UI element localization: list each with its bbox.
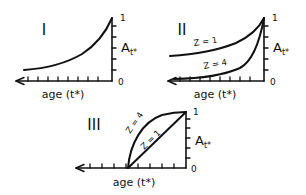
figure-container: I 1 0 At* age (t*) <box>0 0 306 195</box>
y-tick-bottom-label: 0 <box>270 77 276 87</box>
y-tick-top-label: 1 <box>272 13 278 23</box>
x-axis-label: age (t*) <box>113 176 155 189</box>
panel-one: I 1 0 At* age (t*) <box>0 2 152 102</box>
y-axis-label: At* <box>195 133 211 150</box>
panel-one-plot: I 1 0 At* age (t*) <box>0 2 152 102</box>
y-tick-bottom-label: 0 <box>191 164 197 174</box>
y-axis-label-main: A <box>195 133 204 148</box>
y-tick-top-label: 1 <box>193 107 199 117</box>
panel-roman-numeral: I <box>42 21 46 39</box>
y-axis-label: At* <box>121 40 137 57</box>
curve-label-z4: Z = 4 <box>203 57 228 71</box>
y-tick-bottom-label: 0 <box>118 77 124 87</box>
y-axis-label-sub: t* <box>282 48 289 57</box>
panel-roman-numeral: III <box>87 116 100 134</box>
y-axis-label-main: A <box>273 40 282 55</box>
curve-a <box>24 18 112 70</box>
curve-label-z1: Z = 1 <box>193 35 218 48</box>
y-axis-label-sub: t* <box>204 141 211 150</box>
curve-label-z4: Z = 4 <box>123 110 145 135</box>
panel-roman-numeral: II <box>178 21 187 39</box>
y-tick-top-label: 1 <box>120 13 126 23</box>
panel-two: II Z = 1 Z = 4 1 0 At* age (t*) <box>152 2 306 102</box>
panel-two-plot: II Z = 1 Z = 4 1 0 At* age (t*) <box>152 2 306 102</box>
curve-label-z1: Z = 1 <box>138 128 162 152</box>
panel-three: III Z = 4 Z = 1 1 0 At* age (t*) <box>62 100 244 195</box>
y-axis-label-main: A <box>121 40 130 55</box>
y-axis-label: At* <box>273 40 289 57</box>
panel-three-plot: III Z = 4 Z = 1 1 0 At* age (t*) <box>62 100 244 195</box>
y-axis-label-sub: t* <box>130 48 137 57</box>
